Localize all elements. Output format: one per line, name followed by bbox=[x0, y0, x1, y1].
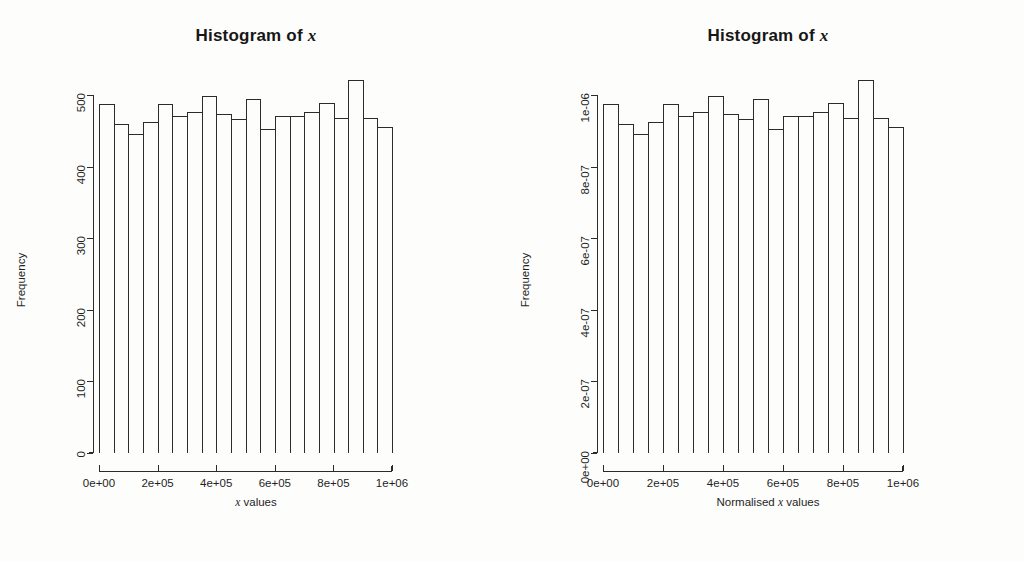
histogram-bar bbox=[334, 118, 350, 453]
histogram-bar bbox=[172, 116, 188, 453]
y-axis-tick-label: 300 bbox=[75, 236, 87, 255]
plot-area-left bbox=[99, 95, 392, 453]
x-axis-tick-label: 2e+05 bbox=[141, 477, 173, 489]
y-axis-tick bbox=[87, 381, 93, 382]
x-axis-tick bbox=[603, 465, 604, 471]
chart-title-left: Histogram of x bbox=[0, 26, 512, 46]
histogram-bar bbox=[738, 119, 754, 453]
histogram-bar bbox=[753, 99, 769, 453]
x-axis-label-left-suffix: values bbox=[240, 496, 276, 508]
histogram-bar bbox=[888, 127, 904, 453]
y-axis-tick bbox=[591, 381, 597, 382]
histogram-figure: Histogram of x Frequency 010020030040050… bbox=[0, 0, 1024, 561]
y-axis-tick bbox=[591, 167, 597, 168]
x-axis-tick-label: 2e+05 bbox=[647, 477, 679, 489]
x-axis-label-left: x values bbox=[0, 496, 512, 508]
x-axis-label-right-suffix: values bbox=[783, 496, 819, 508]
y-axis-tick bbox=[87, 95, 93, 96]
histogram-bar bbox=[202, 96, 218, 453]
histogram-bar bbox=[216, 114, 232, 453]
x-axis-label-right: Normalised x values bbox=[512, 496, 1024, 508]
chart-title-left-variable: x bbox=[308, 26, 317, 45]
histogram-bar bbox=[304, 112, 320, 453]
histogram-panel-left: Histogram of x Frequency 010020030040050… bbox=[0, 0, 512, 561]
y-axis-tick-label: 0 bbox=[75, 451, 87, 457]
histogram-bar bbox=[99, 104, 115, 453]
y-axis-tick-label: 6e-07 bbox=[579, 236, 591, 265]
x-axis-tick-label: 0e+00 bbox=[587, 477, 619, 489]
histogram-bar bbox=[873, 118, 889, 453]
chart-title-right-prefix: Histogram of bbox=[708, 26, 820, 45]
x-axis-tick-label: 1e+06 bbox=[376, 477, 408, 489]
y-axis-right bbox=[597, 95, 598, 453]
y-axis-tick bbox=[87, 453, 93, 454]
x-axis-tick-label: 6e+05 bbox=[259, 477, 291, 489]
y-axis-tick bbox=[591, 453, 597, 454]
y-axis-tick bbox=[591, 310, 597, 311]
y-axis-tick-label: 400 bbox=[75, 165, 87, 184]
histogram-bar bbox=[798, 116, 814, 453]
y-axis-tick bbox=[591, 238, 597, 239]
x-axis-tick-label: 8e+05 bbox=[827, 477, 859, 489]
histogram-bar bbox=[708, 96, 724, 453]
x-axis-tick bbox=[158, 465, 159, 471]
y-axis-label-left: Frequency bbox=[15, 253, 27, 307]
y-axis-tick bbox=[87, 238, 93, 239]
histogram-bar bbox=[319, 103, 335, 453]
y-axis-tick-label: 100 bbox=[75, 379, 87, 398]
histogram-bar bbox=[678, 116, 694, 453]
x-axis-tick bbox=[783, 465, 784, 471]
histogram-bar bbox=[828, 103, 844, 453]
histogram-bar bbox=[693, 112, 709, 453]
x-axis-tick bbox=[903, 465, 904, 471]
x-axis-right bbox=[603, 471, 903, 472]
y-axis-tick-label: 4e-07 bbox=[579, 308, 591, 337]
y-axis-left bbox=[93, 95, 94, 453]
histogram-bar bbox=[231, 119, 247, 453]
x-axis-tick bbox=[99, 465, 100, 471]
y-axis-tick-label: 1e-06 bbox=[579, 93, 591, 122]
histogram-panel-right: Histogram of x Frequency 0e+002e-074e-07… bbox=[512, 0, 1024, 561]
histogram-bar bbox=[813, 112, 829, 453]
chart-title-left-prefix: Histogram of bbox=[196, 26, 308, 45]
x-axis-tick-label: 0e+00 bbox=[83, 477, 115, 489]
histogram-bar bbox=[603, 104, 619, 453]
plot-area-right bbox=[603, 95, 903, 453]
histogram-bar bbox=[290, 116, 306, 453]
histogram-bar bbox=[723, 114, 739, 453]
x-axis-tick bbox=[723, 465, 724, 471]
x-axis-tick bbox=[663, 465, 664, 471]
chart-title-right: Histogram of x bbox=[512, 26, 1024, 46]
histogram-bar bbox=[158, 104, 174, 453]
histogram-bar bbox=[768, 129, 784, 453]
x-axis-tick-label: 1e+06 bbox=[887, 477, 919, 489]
histogram-bar bbox=[260, 129, 276, 453]
histogram-bar bbox=[783, 116, 799, 453]
x-axis-tick bbox=[216, 465, 217, 471]
histogram-bar bbox=[275, 116, 291, 453]
histogram-bar bbox=[348, 80, 364, 453]
x-axis-tick bbox=[333, 465, 334, 471]
y-axis-tick bbox=[87, 167, 93, 168]
histogram-bar bbox=[363, 118, 379, 453]
histogram-bar bbox=[114, 124, 130, 453]
y-axis-label-right: Frequency bbox=[519, 253, 531, 307]
y-axis-tick-label: 2e-07 bbox=[579, 379, 591, 408]
histogram-bar bbox=[633, 134, 649, 453]
histogram-bar bbox=[128, 134, 144, 453]
histogram-bar bbox=[663, 104, 679, 453]
y-axis-tick-label: 8e-07 bbox=[579, 165, 591, 194]
y-axis-tick-label: 200 bbox=[75, 308, 87, 327]
x-axis-tick-label: 6e+05 bbox=[767, 477, 799, 489]
histogram-bar bbox=[246, 99, 262, 453]
y-axis-tick-label: 500 bbox=[75, 93, 87, 112]
y-axis-tick bbox=[87, 310, 93, 311]
histogram-bar bbox=[843, 118, 859, 453]
x-axis-tick-label: 4e+05 bbox=[200, 477, 232, 489]
x-axis-tick bbox=[843, 465, 844, 471]
x-axis-tick-label: 8e+05 bbox=[317, 477, 349, 489]
histogram-bar bbox=[618, 124, 634, 453]
x-axis-tick-label: 4e+05 bbox=[707, 477, 739, 489]
x-axis-left bbox=[99, 471, 392, 472]
histogram-bar bbox=[858, 80, 874, 453]
